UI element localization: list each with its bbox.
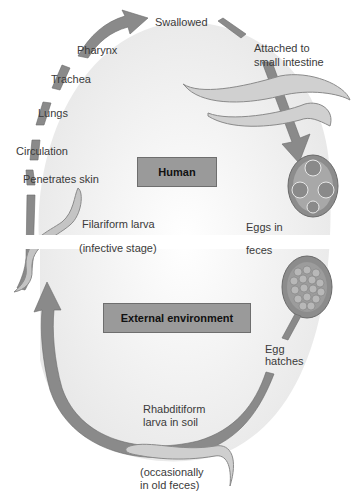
human-region-label: Human bbox=[158, 166, 195, 178]
label-rhabditiform-line1: Rhabditiform bbox=[143, 403, 205, 416]
external-region-label: External environment bbox=[121, 312, 233, 324]
label-infective-stage: (infective stage) bbox=[79, 242, 157, 255]
label-filariform-larva: Filariform larva bbox=[82, 218, 155, 231]
label-occasionally-line1: (occasionally bbox=[140, 466, 204, 479]
label-penetrates-skin: Penetrates skin bbox=[23, 173, 99, 186]
label-trachea: Trachea bbox=[51, 73, 91, 86]
label-pharynx: Pharynx bbox=[77, 44, 117, 57]
label-occasionally-line2: in old feces) bbox=[140, 479, 199, 492]
egg-segmented bbox=[288, 155, 338, 217]
human-external-divider bbox=[20, 235, 357, 249]
label-feces: feces bbox=[246, 244, 272, 257]
label-attached-line2: small intestine bbox=[254, 56, 324, 69]
label-circulation: Circulation bbox=[16, 145, 68, 158]
label-hatches: hatches bbox=[265, 355, 304, 368]
label-attached-line1: Attached to bbox=[254, 42, 310, 55]
label-rhabditiform-line2: larva in soil bbox=[143, 416, 198, 429]
label-lungs: Lungs bbox=[38, 107, 68, 120]
human-region-box: Human bbox=[137, 157, 217, 187]
label-eggs-in: Eggs in bbox=[246, 221, 283, 234]
label-swallowed: Swallowed bbox=[155, 16, 208, 29]
external-environment-box: External environment bbox=[103, 303, 251, 333]
egg-morula bbox=[282, 256, 332, 318]
